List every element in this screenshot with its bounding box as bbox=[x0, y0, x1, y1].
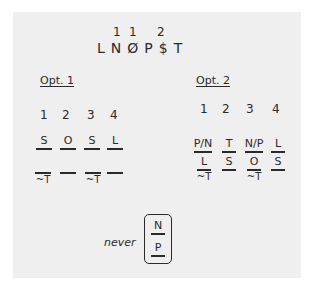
option1-slot-4: L bbox=[104, 134, 126, 150]
letter-s-crossed: $ bbox=[159, 40, 174, 56]
option2-slot-4: L bbox=[268, 137, 288, 153]
option1-slot-4b bbox=[104, 158, 126, 174]
option2-slot-3: N/P bbox=[241, 137, 267, 153]
option2-col-3: 3 bbox=[246, 102, 254, 116]
option2-slot-2: T bbox=[218, 137, 240, 153]
option1-col-4: 4 bbox=[110, 108, 118, 122]
letter-o-crossed: Ø bbox=[127, 40, 144, 56]
never-top: N bbox=[148, 219, 168, 235]
count-n: 1 bbox=[113, 25, 121, 39]
letter-n: N bbox=[111, 40, 127, 56]
letter-p: P bbox=[144, 40, 158, 56]
never-box: N P bbox=[144, 214, 172, 264]
option2-slot-1: P/N bbox=[190, 137, 216, 153]
option2-slot-1b: L~T bbox=[193, 155, 215, 182]
never-label: never bbox=[104, 236, 136, 249]
option2-slot-2b: S bbox=[218, 155, 240, 171]
option1-slot-2b bbox=[57, 158, 79, 174]
option1-col-3: 3 bbox=[87, 108, 95, 122]
option1-title: Opt. 1 bbox=[40, 74, 74, 87]
option1-col-2: 2 bbox=[62, 108, 70, 122]
letter-t: T bbox=[174, 40, 189, 56]
option1-slot-2: O bbox=[57, 134, 79, 150]
option2-slot-4b: S bbox=[268, 155, 288, 171]
option2-col-2: 2 bbox=[222, 102, 230, 116]
option2-col-4: 4 bbox=[272, 102, 280, 116]
letter-sequence: LNØP$T bbox=[97, 40, 188, 56]
option2-title: Opt. 2 bbox=[196, 74, 230, 87]
option2-col-1: 1 bbox=[200, 102, 208, 116]
letter-l: L bbox=[97, 40, 111, 56]
option2-slot-3b: O~T bbox=[243, 155, 265, 182]
option1-slot-3: S bbox=[81, 134, 103, 150]
option1-slot-1b: ~T bbox=[30, 158, 56, 185]
never-bottom: P bbox=[148, 241, 168, 257]
option1-slot-1: S bbox=[33, 134, 55, 150]
option1-col-1: 1 bbox=[40, 108, 48, 122]
count-o: 1 bbox=[129, 25, 137, 39]
count-s: 2 bbox=[157, 25, 165, 39]
option1-slot-3b: ~T bbox=[80, 158, 106, 185]
